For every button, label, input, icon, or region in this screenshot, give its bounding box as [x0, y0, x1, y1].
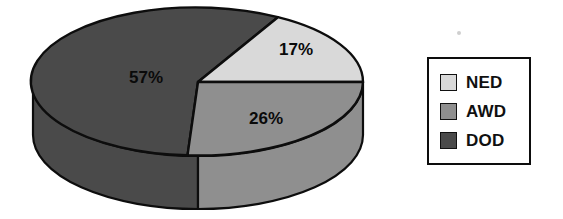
- legend-swatch-awd: [440, 103, 457, 120]
- slice-label-dod: 57%: [129, 68, 163, 87]
- legend-item-awd: AWD: [440, 97, 529, 126]
- pie-chart-graphic: 57% 17% 26%: [0, 0, 400, 219]
- chart-legend: NED AWD DOD: [427, 57, 531, 165]
- slice-label-awd: 26%: [249, 109, 283, 128]
- scan-artifact-speck: [457, 31, 461, 35]
- legend-item-dod: DOD: [440, 126, 529, 155]
- legend-label-ned: NED: [466, 74, 503, 91]
- legend-swatch-ned: [440, 74, 457, 91]
- legend-item-ned: NED: [440, 68, 529, 97]
- slice-label-ned: 17%: [279, 40, 313, 59]
- pie-chart-figure: 57% 17% 26% NED AWD DOD: [0, 0, 563, 219]
- legend-swatch-dod: [440, 132, 457, 149]
- legend-label-awd: AWD: [466, 103, 506, 120]
- legend-label-dod: DOD: [466, 132, 504, 149]
